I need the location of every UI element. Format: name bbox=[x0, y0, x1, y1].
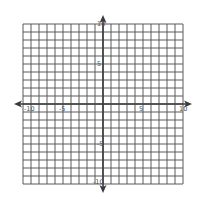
y-tick-label: -10 bbox=[93, 178, 104, 186]
y-tick-label: -5 bbox=[97, 140, 103, 148]
background bbox=[0, 0, 201, 205]
x-tick-label: -10 bbox=[24, 105, 35, 113]
y-tick-label: 5 bbox=[97, 60, 101, 68]
coordinate-plane: -10 -5 5 10 10 5 -5 -10 bbox=[0, 0, 201, 205]
y-tick-label: 10 bbox=[97, 20, 105, 28]
x-tick-label: -5 bbox=[59, 105, 65, 113]
x-tick-label: 5 bbox=[139, 105, 143, 113]
x-tick-label: 10 bbox=[179, 105, 187, 113]
